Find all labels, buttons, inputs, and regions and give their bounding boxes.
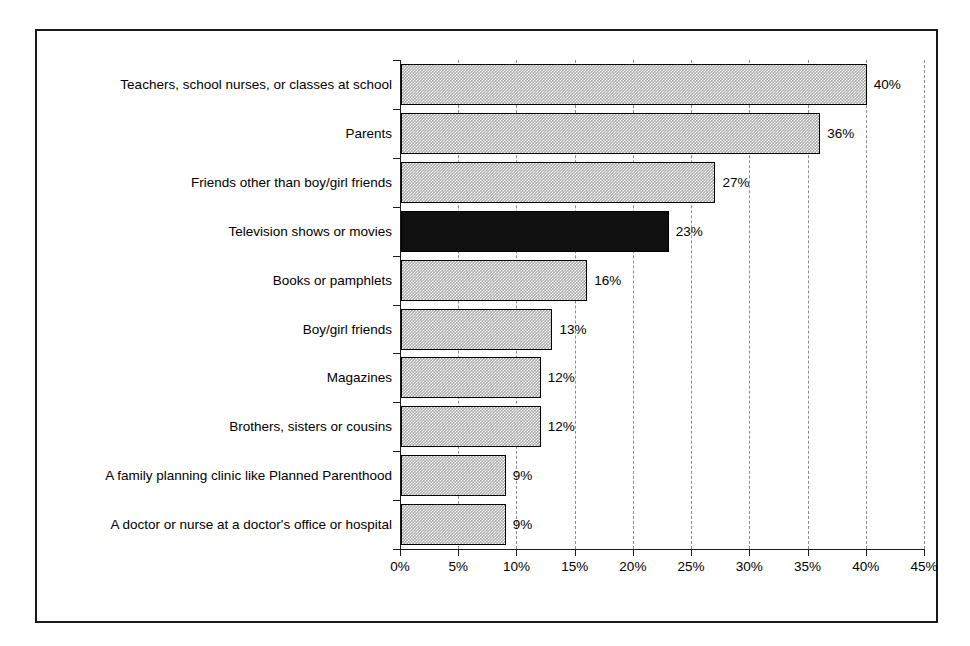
x-axis-tick [749,549,750,556]
bar-row: Parents36% [37,109,936,158]
category-label: Boy/girl friends [303,305,392,354]
bar [401,211,669,252]
bar-row: Books or pamphlets16% [37,256,936,305]
bar [401,309,552,350]
bar-value-label: 36% [821,109,854,158]
category-label: Books or pamphlets [273,256,392,305]
bar-value-label: 23% [670,207,703,256]
bar-row: Friends other than boy/girl friends27% [37,158,936,207]
category-label: Parents [345,109,392,158]
x-axis-tick [516,549,517,556]
bar [401,64,867,105]
x-axis-tick [400,549,401,556]
category-label: Teachers, school nurses, or classes at s… [120,60,392,109]
x-axis-tick [633,549,634,556]
x-axis-tick-label: 10% [486,559,546,574]
x-axis-tick [924,549,925,556]
bar-row: Brothers, sisters or cousins12% [37,402,936,451]
bar [401,504,506,545]
category-label: Television shows or movies [228,207,392,256]
bar-value-label: 9% [507,500,533,549]
x-axis-tick-label: 45% [894,559,954,574]
x-axis-tick-label: 30% [719,559,779,574]
bar-row: Magazines12% [37,353,936,402]
category-label: A family planning clinic like Planned Pa… [105,451,392,500]
bar [401,357,541,398]
category-label: Brothers, sisters or cousins [229,402,392,451]
bar [401,260,587,301]
category-axis-tick [393,549,400,550]
bar [401,455,506,496]
x-axis-tick-label: 20% [603,559,663,574]
bar-row: Boy/girl friends13% [37,305,936,354]
category-label: Friends other than boy/girl friends [191,158,392,207]
bar-row: Teachers, school nurses, or classes at s… [37,60,936,109]
x-axis-tick-label: 25% [661,559,721,574]
bar-row: A doctor or nurse at a doctor's office o… [37,500,936,549]
bar-row: A family planning clinic like Planned Pa… [37,451,936,500]
chart-frame: 0%5%10%15%20%25%30%35%40%45% Teachers, s… [35,29,938,623]
x-axis-tick [458,549,459,556]
x-axis-tick-label: 40% [836,559,896,574]
category-label: A doctor or nurse at a doctor's office o… [111,500,392,549]
x-axis-tick [575,549,576,556]
bar-value-label: 12% [542,402,575,451]
x-axis-tick [691,549,692,556]
x-axis-tick [866,549,867,556]
bar-value-label: 27% [716,158,749,207]
category-label: Magazines [327,353,392,402]
bar [401,113,820,154]
bar-value-label: 16% [588,256,621,305]
bar [401,406,541,447]
bar-row: Television shows or movies23% [37,207,936,256]
x-axis-tick-label: 5% [428,559,488,574]
x-axis-tick-label: 35% [778,559,838,574]
bar-value-label: 40% [868,60,901,109]
bar-value-label: 12% [542,353,575,402]
bar-value-label: 9% [507,451,533,500]
bar [401,162,715,203]
x-axis-tick-label: 15% [545,559,605,574]
x-axis-line [400,549,925,550]
x-axis-tick [808,549,809,556]
bar-value-label: 13% [553,305,586,354]
x-axis-tick-label: 0% [370,559,430,574]
